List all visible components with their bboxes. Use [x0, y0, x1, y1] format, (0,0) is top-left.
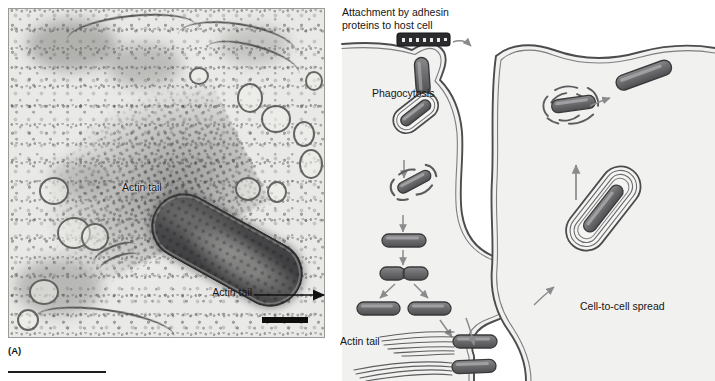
- vesicle: [39, 177, 69, 205]
- daughter-bacterium-left: [357, 302, 400, 315]
- cell-to-cell-spread-label: Cell-to-cell spread: [580, 300, 665, 312]
- actin-tail-label-b-wrapper: Actin tail: [0, 286, 336, 306]
- actin-tail-label-b-text: Actin tail: [212, 286, 252, 298]
- phagocytosis-label: Phagocytosis: [372, 87, 434, 99]
- actin-tail-arrow-b: [254, 288, 334, 302]
- adhesin-attachment-group: [397, 33, 471, 46]
- infection-cycle-diagram: Actin tail: [340, 0, 715, 381]
- dividing-bacterium-half-left: [380, 267, 405, 280]
- vesicle: [293, 121, 315, 147]
- vesicle: [267, 181, 287, 203]
- attachment-label-line2: proteins to host cell: [342, 19, 432, 31]
- vesicle: [81, 223, 109, 251]
- cytosolic-bacterium-group: [382, 234, 426, 247]
- cytosolic-bacterium: [382, 234, 426, 247]
- motile-bacterium-in-protrusion: [452, 359, 496, 374]
- bacterium-highlight: [386, 237, 419, 240]
- panel-a-underline-rule: [8, 371, 106, 373]
- bacterium-highlight: [361, 305, 393, 308]
- dividing-bacterium-group: [380, 267, 428, 280]
- dividing-bacterium-half-right: [403, 267, 428, 280]
- vesicle: [189, 67, 209, 85]
- vesicle: [237, 83, 263, 113]
- vesicle: [17, 309, 39, 331]
- daughter-bacterium-right: [408, 302, 451, 315]
- panel-b: Actin tail: [340, 0, 715, 381]
- actin-tail-label: Actin tail: [122, 181, 162, 193]
- motile-bacterium-upper: [453, 335, 497, 348]
- vesicle: [299, 149, 323, 179]
- bacterium-highlight: [412, 305, 444, 308]
- attachment-arrow: [453, 41, 471, 46]
- vesicle: [235, 177, 261, 201]
- vesicle: [305, 71, 323, 91]
- vesicle: [261, 105, 291, 133]
- figure-container: Actin tail (A) (B): [0, 0, 715, 381]
- attachment-label-line1: Attachment by adhesin: [342, 6, 449, 18]
- panel-a-letter: (A): [8, 345, 21, 356]
- scale-bar: [262, 317, 308, 323]
- actin-tail-label-b: Actin tail: [340, 335, 380, 347]
